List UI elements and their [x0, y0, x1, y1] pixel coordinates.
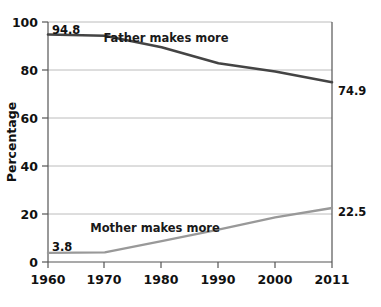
x-tick-label-1960: 1960: [31, 272, 66, 287]
y-tick-label-80: 80: [21, 63, 39, 78]
y-tick-label-0: 0: [29, 255, 38, 270]
value-label-father-start: 94.8: [52, 23, 80, 37]
gridlines: [48, 22, 332, 214]
value-label-father-end: 74.9: [338, 84, 366, 98]
x-tick-marks: [48, 262, 332, 268]
y-tick-label-60: 60: [21, 111, 39, 126]
value-label-mother-end: 22.5: [338, 205, 366, 219]
x-tick-label-2000: 2000: [258, 272, 293, 287]
x-tick-label-2011: 2011: [315, 272, 350, 287]
series-annotation-father: Father makes more: [103, 31, 228, 45]
value-label-mother-start: 3.8: [52, 240, 72, 254]
line-chart: 100 80 60 40 20 0 1960 1970 1980 1990 20…: [0, 0, 381, 307]
series-annotation-mother: Mother makes more: [90, 221, 220, 235]
x-tick-labels: 1960 1970 1980 1990 2000 2011: [31, 272, 350, 287]
y-tick-label-100: 100: [12, 15, 38, 30]
y-tick-label-20: 20: [21, 207, 39, 222]
y-axis-title: Percentage: [4, 102, 19, 182]
chart-container: 100 80 60 40 20 0 1960 1970 1980 1990 20…: [0, 0, 381, 307]
x-tick-label-1970: 1970: [87, 272, 122, 287]
x-tick-label-1990: 1990: [201, 272, 236, 287]
y-tick-label-40: 40: [21, 159, 39, 174]
x-tick-label-1980: 1980: [144, 272, 179, 287]
y-tick-marks: [42, 22, 48, 262]
